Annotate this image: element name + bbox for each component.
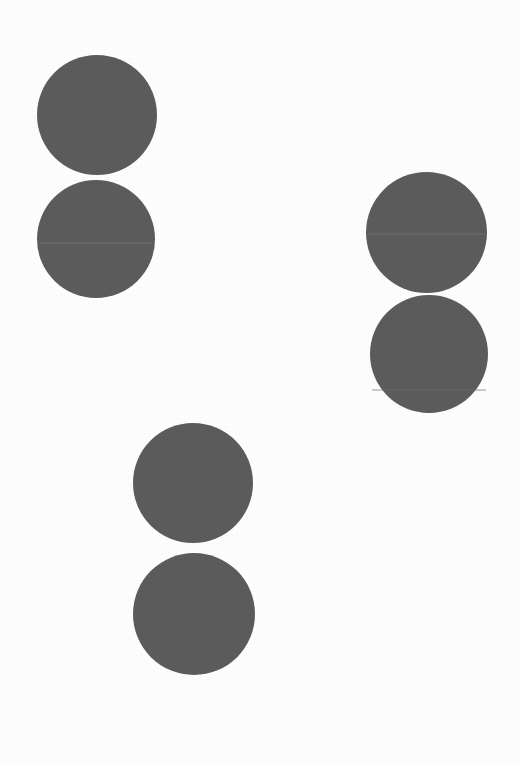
disc-bottom-center-upper bbox=[133, 423, 253, 543]
page-canvas bbox=[0, 0, 520, 764]
disc-top-left-upper bbox=[37, 55, 157, 175]
disc-bottom-center-lower bbox=[133, 553, 255, 675]
disc-top-left-lower bbox=[37, 180, 155, 298]
disc-right-lower bbox=[370, 295, 488, 413]
disc-right-upper bbox=[366, 172, 487, 293]
